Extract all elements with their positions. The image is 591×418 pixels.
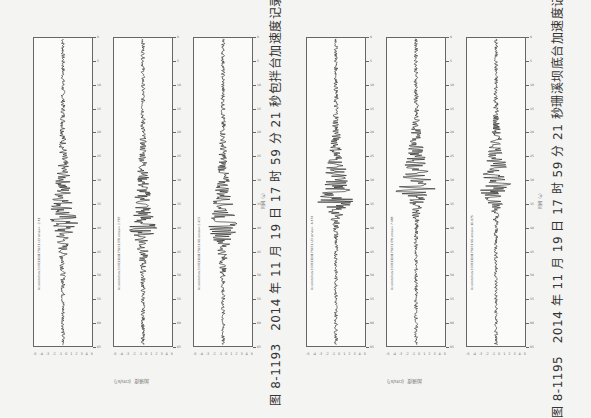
accelerogram-panel-ud	[306, 37, 366, 347]
panel-header: Acceleration 20081119175921 UD amax= -6.…	[310, 216, 314, 290]
panel-header: Acceleration 20081119175921 NS amax= 11.…	[470, 215, 474, 290]
accelerogram-panel-ew	[113, 37, 173, 347]
accel-axis-ticks: -5-4-3-2-1012345	[113, 352, 173, 360]
accel-axis-ticks: -5-4-3-2-1012345	[33, 352, 93, 360]
time-axis-label: 时间（s）	[537, 191, 543, 209]
accelerogram-panel-ns	[466, 37, 526, 347]
accel-axis-label: 加速度（cm/s²）	[384, 379, 423, 386]
accelerogram-panel-ud	[33, 37, 93, 347]
time-axis-ticks: 05101520253035404550556065	[173, 37, 181, 347]
accel-axis-ticks: -5-4-3-2-1012345	[193, 352, 253, 360]
time-axis-ticks: 05101520253035404550556065	[366, 37, 374, 347]
time-axis-ticks: 05101520253035404550556065	[446, 37, 454, 347]
accelerogram-panel-ns	[193, 37, 253, 347]
figure-caption: 图 8-1195 2014 年 11 月 19 日 17 时 59 分 21 秒…	[548, 0, 565, 418]
panel-header: Acceleration 20081119175921 EW amax= 2.7…	[117, 216, 121, 290]
accel-axis-ticks: -5-4-3-2-1012345	[466, 352, 526, 360]
time-axis-ticks: 05101520253035404550556065	[526, 37, 534, 347]
panel-header: Acceleration 20081119175921 NS amax=-2.4…	[197, 217, 201, 290]
accel-axis-ticks: -5-4-3-2-1012345	[306, 352, 366, 360]
accelerogram-panel-ew	[386, 37, 446, 347]
time-axis-ticks: 05101520253035404550556065	[93, 37, 101, 347]
panel-header: Acceleration 20081119175921 EW amax= 7.4…	[390, 216, 394, 290]
panel-header: Acceleration 20081119175921 UD amax= -2.…	[37, 218, 41, 290]
time-axis-ticks: 05101520253035404550556065	[253, 37, 261, 347]
accel-axis-ticks: -5-4-3-2-1012345	[386, 352, 446, 360]
accel-axis-label: 加速度（cm/s²）	[111, 379, 150, 386]
figure-caption: 图 8-1193 2014 年 11 月 19 日 17 时 59 分 21 秒…	[266, 0, 283, 406]
